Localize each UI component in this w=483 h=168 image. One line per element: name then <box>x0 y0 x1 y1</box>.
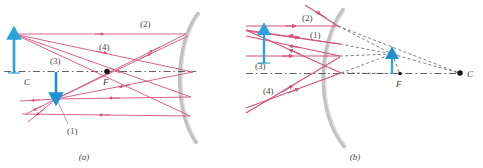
ray-1-extension-a-arrow <box>32 100 40 101</box>
panel-a: C F (1) (2) (3) (4) (a) <box>4 14 200 162</box>
ray-label-2-a: (2) <box>140 19 151 29</box>
ray-aux-a <box>56 36 188 99</box>
ray-1-reflected-b <box>247 31 340 44</box>
ray-4-incident-b-arrow <box>288 89 298 93</box>
virtual-ray-2-b <box>340 44 392 54</box>
virtual-ray-4-b <box>341 54 392 73</box>
panel-caption-a: (a) <box>79 152 90 162</box>
ray-label-2-b: (2) <box>302 13 313 23</box>
virtual-ray-3-b <box>340 54 392 56</box>
ray-diagram-svg: C F (1) (2) (3) (4) (a) <box>0 0 483 168</box>
ray-1-leader-a <box>58 102 68 124</box>
virtual-ray-1-b <box>338 26 392 54</box>
ray-2-reflected-b-arrow <box>317 12 326 18</box>
ray-4-reflected-b-arrow <box>290 50 300 54</box>
virtual-ray-to-center-b <box>392 54 459 73</box>
ray-label-4-b: (4) <box>263 86 274 96</box>
panel-b: F C (1) (2) (3) (4) (b) <box>246 5 474 162</box>
ray-1-reflected-a <box>56 97 191 99</box>
center-label-a: C <box>24 77 31 87</box>
figure-container: C F (1) (2) (3) (4) (a) <box>0 0 483 168</box>
center-point-b <box>457 70 463 76</box>
ray-label-3-a: (3) <box>50 56 61 66</box>
ray-4-reflected-a <box>56 72 193 99</box>
panel-caption-b: (b) <box>350 152 361 162</box>
focal-point-a <box>104 69 110 75</box>
ray-label-1-a: (1) <box>67 126 78 136</box>
ray-label-1-b: (1) <box>310 30 321 40</box>
focus-point-b <box>398 72 402 76</box>
ray-label-4-a: (4) <box>99 42 110 52</box>
ray-2-extension-a-arrow <box>34 106 42 110</box>
ray-label-3-b: (3) <box>255 61 266 71</box>
virtual-ray-upper-b <box>338 26 459 73</box>
ray-2-reflected-a-arrow <box>150 47 160 52</box>
focus-label-a: F <box>102 77 109 87</box>
focus-label-b: F <box>395 79 402 89</box>
center-label-b: C <box>467 69 474 79</box>
